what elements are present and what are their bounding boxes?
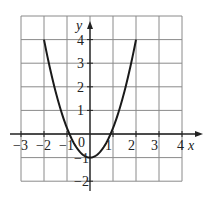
y-tick-label: −1 [74, 151, 89, 166]
y-tick-label: 3 [77, 56, 84, 71]
parabola-chart: −3−2−112340−2−11234xy [0, 0, 215, 197]
x-axis-arrow-icon [195, 131, 203, 137]
y-tick-label: 4 [77, 33, 84, 48]
x-tick-label: −3 [13, 138, 28, 153]
y-tick-label: 1 [77, 103, 84, 118]
y-axis-label: y [74, 18, 83, 33]
x-tick-label: −1 [59, 138, 74, 153]
origin-label: 0 [78, 135, 85, 150]
axes [10, 21, 203, 191]
y-tick-label: 2 [77, 80, 84, 95]
x-tick-label: −2 [36, 138, 51, 153]
x-tick-label: 1 [105, 138, 112, 153]
x-tick-label: 3 [151, 138, 158, 153]
x-tick-label: 4 [177, 138, 184, 153]
tick-labels: −3−2−112340−2−11234xy [13, 18, 195, 189]
x-axis-label: x [187, 138, 195, 153]
y-tick-label: −2 [74, 174, 89, 189]
x-tick-label: 2 [128, 138, 135, 153]
y-axis-arrow-icon [87, 21, 93, 29]
